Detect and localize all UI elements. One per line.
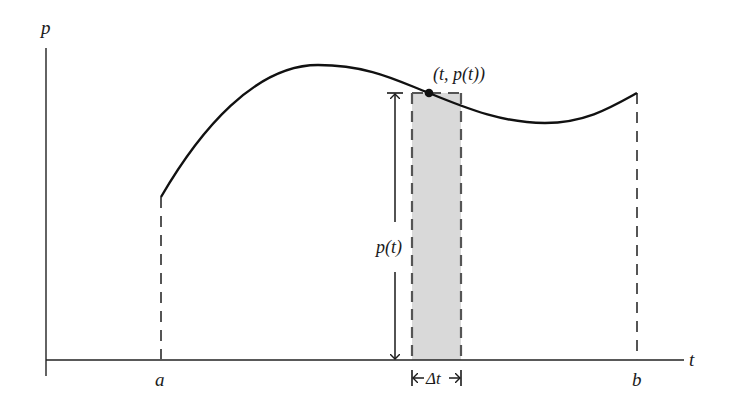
point-marker bbox=[425, 89, 434, 98]
tick-label-a: a bbox=[155, 369, 165, 390]
tick-label-b: b bbox=[632, 369, 642, 390]
curve-p-of-t bbox=[161, 65, 637, 197]
width-label: Δt bbox=[425, 369, 442, 388]
shaded-strip bbox=[412, 93, 461, 360]
height-label: p(t) bbox=[374, 237, 402, 258]
y-axis-label: p bbox=[39, 17, 51, 38]
riemann-strip-diagram: p t a b (t, p(t)) p(t) Δt bbox=[0, 0, 734, 403]
point-label: (t, p(t)) bbox=[433, 64, 485, 85]
x-axis-label: t bbox=[689, 349, 695, 370]
